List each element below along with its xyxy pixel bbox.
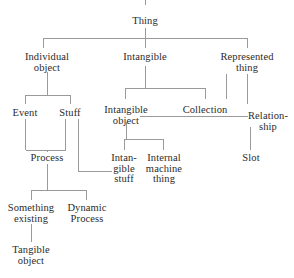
edge-bracket-process-children [32,190,87,200]
edge-stuff-elbow [79,119,113,172]
node-collection[interactable]: Collection [183,105,228,116]
node-tangible-object[interactable]: Tangible object [12,245,49,266]
tree-connector-lines [0,0,294,278]
node-process[interactable]: Process [31,153,64,164]
edge-bracket-individual [26,95,71,104]
node-represented-thing[interactable]: Represented thing [221,52,274,73]
node-internal-machine-thing[interactable]: Internal machine thing [146,153,182,185]
node-intangible[interactable]: Intangible [123,52,167,63]
node-intangible-stuff[interactable]: Intan- gible stuff [111,153,137,185]
edge-bracket-intangible-object [125,139,164,150]
node-individual-object[interactable]: Individual object [25,52,69,73]
ontology-tree-diagram: Thing Individual object Intangible Repre… [0,0,294,278]
node-something-existing[interactable]: Something existing [8,203,54,224]
node-thing[interactable]: Thing [132,16,158,27]
edge-bracket-thing [44,38,248,48]
node-stuff[interactable]: Stuff [59,108,80,119]
node-intangible-object[interactable]: Intangible object [104,105,148,126]
node-event[interactable]: Event [13,108,38,119]
node-slot[interactable]: Slot [242,153,259,164]
edge-bracket-intangible [126,88,206,99]
node-relationship[interactable]: Relation- ship [248,111,288,132]
node-dynamic-process[interactable]: Dynamic Process [67,203,106,224]
